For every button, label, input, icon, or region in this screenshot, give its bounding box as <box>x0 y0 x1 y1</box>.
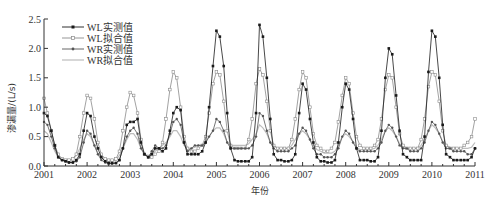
x-tick-label: 2010 <box>422 169 442 180</box>
y-tick-label: 2.5 <box>29 14 42 25</box>
x-tick-label: 2005 <box>206 169 226 180</box>
x-tick-label: 2004 <box>163 169 183 180</box>
legend-label: WL实测值 <box>87 21 133 33</box>
y-tick-label: 1.0 <box>29 102 42 113</box>
legend-item: WL拟合值 <box>62 32 133 44</box>
legend-label: WL拟合值 <box>87 32 133 44</box>
y-tick-label: 2.0 <box>29 43 42 54</box>
x-tick-label: 2001 <box>34 169 54 180</box>
legend-item: WL实测值 <box>62 21 133 33</box>
legend-item: WR拟合值 <box>62 54 133 66</box>
x-tick-label: 2008 <box>336 169 356 180</box>
x-tick-label: 2007 <box>293 169 313 180</box>
y-tick-label: 0.5 <box>29 131 42 142</box>
legend-label: WR实测值 <box>87 43 133 55</box>
legend-item: WR实测值 <box>62 43 133 55</box>
x-tick-label: 2003 <box>120 169 140 180</box>
y-axis-label: 渗漏量/(L/s) <box>6 83 17 133</box>
x-tick-label: 2002 <box>77 169 97 180</box>
leakage-line-chart: 0.00.51.01.52.02.52001200220032004200520… <box>0 0 497 207</box>
legend: WL实测值WL拟合值WR实测值WR拟合值 <box>62 21 133 66</box>
x-tick-label: 2011 <box>465 169 485 180</box>
legend-label: WR拟合值 <box>87 54 133 66</box>
series-3 <box>44 125 475 162</box>
series-2 <box>43 112 476 165</box>
x-tick-label: 2009 <box>379 169 399 180</box>
x-axis-label: 年份 <box>251 185 269 196</box>
y-tick-label: 1.5 <box>29 72 42 83</box>
x-tick-label: 2006 <box>250 169 270 180</box>
